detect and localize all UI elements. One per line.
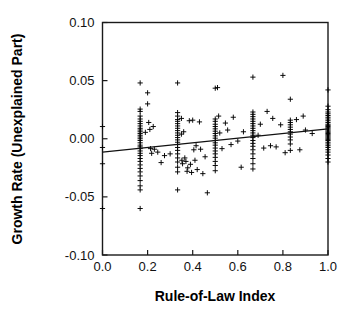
y-tick-label: 0.10 <box>69 15 94 30</box>
scatter-plot: 0.00.20.40.60.81.0 -0.10-0.050.000.050.1… <box>0 0 351 316</box>
y-axis-title: Growth Rate (Unexplained Part) <box>9 34 25 245</box>
x-tick-label: 0.4 <box>184 259 202 274</box>
x-tick-label: 0.8 <box>274 259 292 274</box>
y-tick-label: -0.10 <box>65 248 95 263</box>
y-tick-label: 0.00 <box>69 131 94 146</box>
x-tick-label: 0.2 <box>139 259 157 274</box>
x-tick-label: 0.0 <box>93 259 111 274</box>
x-tick-label: 0.6 <box>229 259 247 274</box>
x-tick-label: 1.0 <box>319 259 337 274</box>
x-axis-title: Rule-of-Law Index <box>155 288 276 304</box>
y-tick-label: -0.05 <box>65 189 95 204</box>
y-tick-label: 0.05 <box>69 73 94 88</box>
chart-page: 0.00.20.40.60.81.0 -0.10-0.050.000.050.1… <box>0 0 351 316</box>
